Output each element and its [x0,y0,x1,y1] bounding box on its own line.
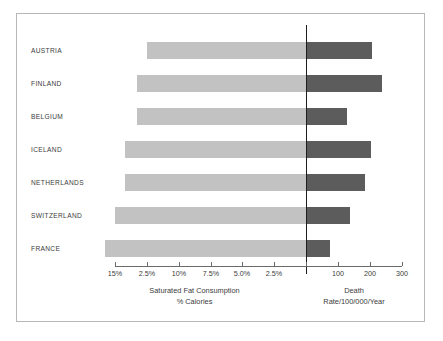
death-rate-bar [306,207,350,224]
axis-tick [274,262,275,266]
axis-tick [211,262,212,266]
axis-tick-label: 7.5% [203,269,219,278]
category-label-finland: FINLAND [31,75,62,92]
fat-consumption-bar [147,42,306,59]
fat-consumption-bar [137,75,306,92]
axis-tick-label: 300 [396,269,408,278]
fat-consumption-bar [115,207,306,224]
fat-consumption-bar [125,174,306,191]
category-label-belgium: BELGIUM [31,108,63,125]
axis-tick [179,262,180,266]
axis-tick-label: 5.0% [234,269,250,278]
category-label-netherlands: NETHERLANDS [31,174,84,191]
category-label-switzerland: SWITZERLAND [31,207,82,224]
axis-tick [115,262,116,266]
fat-consumption-bar [137,108,306,125]
chart-figure: AUSTRIAFINLANDBELGIUMICELANDNETHERLANDSS… [16,13,425,322]
death-rate-bar [306,174,365,191]
axis-tick [370,262,371,266]
axis-tick-label: 2.5% [139,269,155,278]
death-rate-bar [306,75,382,92]
bar-row: NETHERLANDS [17,174,426,191]
axis-tick-label: 200 [364,269,376,278]
category-label-iceland: ICELAND [31,141,62,158]
death-rate-bar [306,108,347,125]
axis-tick [402,262,403,266]
axis-tick [147,262,148,266]
category-label-france: FRANCE [31,240,60,257]
plot-area: AUSTRIAFINLANDBELGIUMICELANDNETHERLANDSS… [17,14,426,323]
death-rate-bar [306,141,371,158]
axis-tick-label: 15% [108,269,122,278]
left-axis-title: Saturated Fat Consumption % Calories [149,286,239,307]
bar-row: SWITZERLAND [17,207,426,224]
bar-row: FINLAND [17,75,426,92]
fat-consumption-bar [105,240,306,257]
center-divider-line [306,25,307,274]
death-rate-bar [306,240,330,257]
bar-row: FRANCE [17,240,426,257]
category-label-austria: AUSTRIA [31,42,62,59]
bar-row: ICELAND [17,141,426,158]
death-rate-bar [306,42,372,59]
axis-tick-label: 2.5% [266,269,282,278]
right-axis-title: Death Rate/100/000/Year [318,286,390,307]
axis-tick [306,262,307,266]
axis-tick [242,262,243,266]
fat-consumption-bar [125,141,306,158]
bar-row: BELGIUM [17,108,426,125]
axis-tick [338,262,339,266]
axis-tick-label: 10% [172,269,186,278]
axis-line [115,266,402,267]
axis-tick-label: 100 [332,269,344,278]
bar-row: AUSTRIA [17,42,426,59]
